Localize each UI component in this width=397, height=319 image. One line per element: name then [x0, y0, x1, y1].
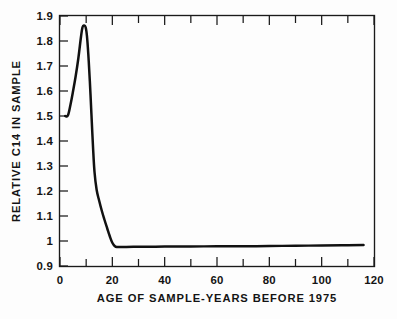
y-tick-label: 1.7	[37, 60, 53, 72]
x-tick-label: 60	[210, 274, 223, 286]
y-tick-label: 1	[46, 235, 53, 247]
x-tick-label: 100	[312, 274, 332, 286]
x-axis-title: AGE OF SAMPLE-YEARS BEFORE 1975	[97, 292, 338, 304]
y-tick-label: 1.6	[37, 85, 53, 97]
carbon14-line-chart: 0.911.11.21.31.41.51.61.71.81.9 02040608…	[0, 0, 397, 319]
y-tick-label: 0.9	[37, 260, 53, 272]
x-tick-label: 20	[106, 274, 119, 286]
y-tick-label: 1.2	[37, 185, 53, 197]
figure-container: 0.911.11.21.31.41.51.61.71.81.9 02040608…	[0, 0, 397, 319]
x-tick-label: 0	[57, 274, 64, 286]
y-tick-label: 1.4	[37, 135, 54, 147]
x-tick-label: 40	[158, 274, 171, 286]
y-tick-label: 1.5	[37, 110, 54, 122]
x-tick-label: 80	[263, 274, 276, 286]
y-tick-label: 1.1	[37, 210, 54, 222]
y-tick-label: 1.8	[37, 35, 53, 47]
x-tick-label: 120	[364, 274, 384, 286]
y-tick-label: 1.3	[37, 160, 53, 172]
y-axis-title: RELATIVE C14 IN SAMPLE	[10, 60, 22, 222]
y-tick-label: 1.9	[37, 10, 53, 22]
